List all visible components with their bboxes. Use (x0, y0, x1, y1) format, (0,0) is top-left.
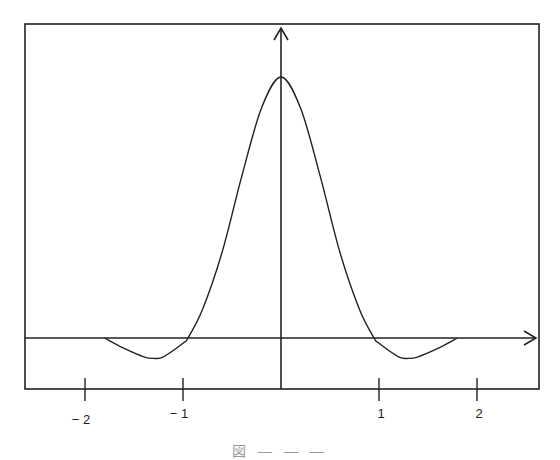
x-tick-label: 2 (475, 406, 482, 421)
x-tick-label: − 1 (170, 406, 188, 421)
x-tick-label: 1 (377, 406, 384, 421)
x-tick-label: − 2 (72, 412, 90, 427)
x-ticks: − 2− 112 (72, 378, 483, 427)
figure-caption: 図 — — — (0, 440, 560, 460)
plot-frame (25, 24, 539, 389)
